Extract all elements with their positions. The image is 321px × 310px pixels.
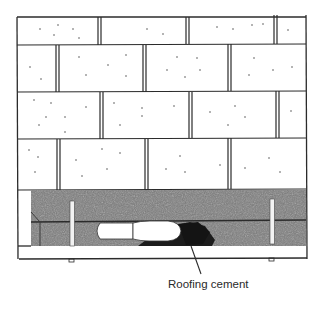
putty-knife-icon: [97, 221, 181, 241]
callout-leader-line: [191, 246, 201, 274]
shingle-illustration: [0, 0, 321, 310]
nail-right: [270, 199, 275, 244]
bottom-edge: [18, 246, 307, 262]
shingle-diagram: Roofing cement: [0, 0, 321, 310]
shingle-texture-dots: [28, 23, 293, 177]
roofing-cement-label: Roofing cement: [168, 278, 249, 290]
nail-left: [70, 201, 75, 246]
shingle-courses: [17, 15, 306, 190]
